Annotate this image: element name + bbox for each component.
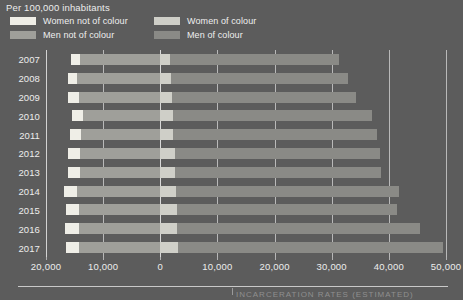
bar-segment	[160, 223, 177, 234]
bar-row[interactable]: 2009	[46, 88, 446, 107]
x-tick	[275, 257, 276, 260]
stacked-bar	[46, 204, 446, 215]
stacked-bar	[46, 186, 446, 197]
legend-item-men-of-colour[interactable]: Men of colour	[154, 29, 256, 41]
bar-segment	[77, 186, 160, 197]
x-tick	[160, 257, 161, 260]
y-tick-label: 2014	[18, 186, 40, 197]
bar-segment	[172, 92, 356, 103]
bar-segment	[83, 110, 161, 121]
legend-item-women-not-of-colour[interactable]: Women not of colour	[10, 15, 128, 27]
gridline-50000	[446, 50, 447, 257]
bar-segment	[71, 54, 80, 65]
bar-segment	[77, 73, 160, 84]
bar-row[interactable]: 2015	[46, 201, 446, 220]
legend-item-men-not-of-colour[interactable]: Men not of colour	[10, 29, 128, 41]
bar-segment	[175, 167, 381, 178]
bar-segment	[80, 167, 161, 178]
y-tick-label: 2009	[18, 92, 40, 103]
x-tick-label: 50,000	[431, 261, 461, 272]
bar-segment	[72, 110, 83, 121]
bar-segment	[79, 92, 161, 103]
bar-segment	[160, 148, 174, 159]
plot-area: 2007200820092010201120122013201420152016…	[46, 50, 446, 257]
x-tick-label: 20,000	[259, 261, 289, 272]
bar-segment	[170, 54, 339, 65]
bar-row[interactable]: 2017	[46, 238, 446, 257]
bar-segment	[173, 110, 372, 121]
stacked-bar	[46, 73, 446, 84]
bar-segment	[176, 186, 399, 197]
bar-row[interactable]: 2013	[46, 163, 446, 182]
legend-label: Women of colour	[187, 16, 256, 26]
x-axis: 20,00010,000010,00020,00030,00040,00050,…	[46, 257, 446, 279]
unit-label: Per 100,000 inhabitants	[6, 2, 110, 13]
x-tick-label: 30,000	[317, 261, 347, 272]
x-tick	[332, 257, 333, 260]
bar-segment	[173, 129, 377, 140]
bar-segment	[66, 242, 79, 253]
y-tick-label: 2013	[18, 167, 40, 178]
chart-root: Per 100,000 inhabitants Women not of col…	[0, 0, 463, 300]
bar-segment	[160, 186, 175, 197]
bar-segment	[79, 223, 161, 234]
bar-segment	[160, 167, 174, 178]
bar-segment	[171, 73, 348, 84]
x-tick-label: 0	[158, 261, 163, 272]
stacked-bar	[46, 242, 446, 253]
legend-label: Men of colour	[187, 30, 243, 40]
bar-segment	[81, 129, 160, 140]
bar-row[interactable]: 2008	[46, 69, 446, 88]
bar-segment	[65, 223, 78, 234]
bar-segment	[160, 92, 171, 103]
x-tick-label: 40,000	[374, 261, 404, 272]
bar-row[interactable]: 2010	[46, 106, 446, 125]
y-tick-label: 2010	[18, 110, 40, 121]
x-tick-label: 20,000	[31, 261, 61, 272]
y-tick-label: 2016	[18, 223, 40, 234]
footer-divider	[18, 286, 448, 287]
x-tick	[217, 257, 218, 260]
y-tick-label: 2015	[18, 204, 40, 215]
footer-caption-tick	[232, 288, 233, 295]
bar-segment	[80, 148, 160, 159]
bar-segment	[68, 92, 78, 103]
legend-column-left: Women not of colour Men not of colour	[10, 15, 128, 43]
y-tick-label: 2008	[18, 73, 40, 84]
bar-segment	[66, 204, 79, 215]
bar-row[interactable]: 2012	[46, 144, 446, 163]
stacked-bar	[46, 167, 446, 178]
bar-segment	[160, 73, 171, 84]
stacked-bar	[46, 92, 446, 103]
bar-segment	[160, 242, 178, 253]
bar-segment	[64, 186, 77, 197]
x-tick	[46, 257, 47, 260]
bar-row[interactable]: 2016	[46, 219, 446, 238]
y-tick-label: 2007	[18, 54, 40, 65]
bar-segment	[68, 148, 80, 159]
stacked-bar	[46, 129, 446, 140]
legend-swatch-men-not-of-colour	[10, 31, 36, 39]
bar-row[interactable]: 2014	[46, 182, 446, 201]
y-tick-label: 2017	[18, 242, 40, 253]
legend-label: Men not of colour	[43, 30, 114, 40]
bar-segment	[160, 129, 173, 140]
bar-segment	[160, 110, 173, 121]
bar-segment	[79, 242, 160, 253]
bar-row[interactable]: 2011	[46, 125, 446, 144]
bar-segment	[160, 204, 177, 215]
stacked-bar	[46, 148, 446, 159]
legend-column-right: Women of colour Men of colour	[154, 15, 256, 43]
bar-segment	[160, 54, 170, 65]
bar-segment	[80, 54, 161, 65]
x-tick-label: 10,000	[202, 261, 232, 272]
y-tick-label: 2011	[19, 129, 40, 140]
x-tick	[103, 257, 104, 260]
x-tick	[446, 257, 447, 260]
stacked-bar	[46, 54, 446, 65]
legend-item-women-of-colour[interactable]: Women of colour	[154, 15, 256, 27]
legend-swatch-women-of-colour	[154, 17, 180, 25]
legend-swatch-men-of-colour	[154, 31, 180, 39]
bar-row[interactable]: 2007	[46, 50, 446, 69]
bar-segment	[70, 129, 81, 140]
